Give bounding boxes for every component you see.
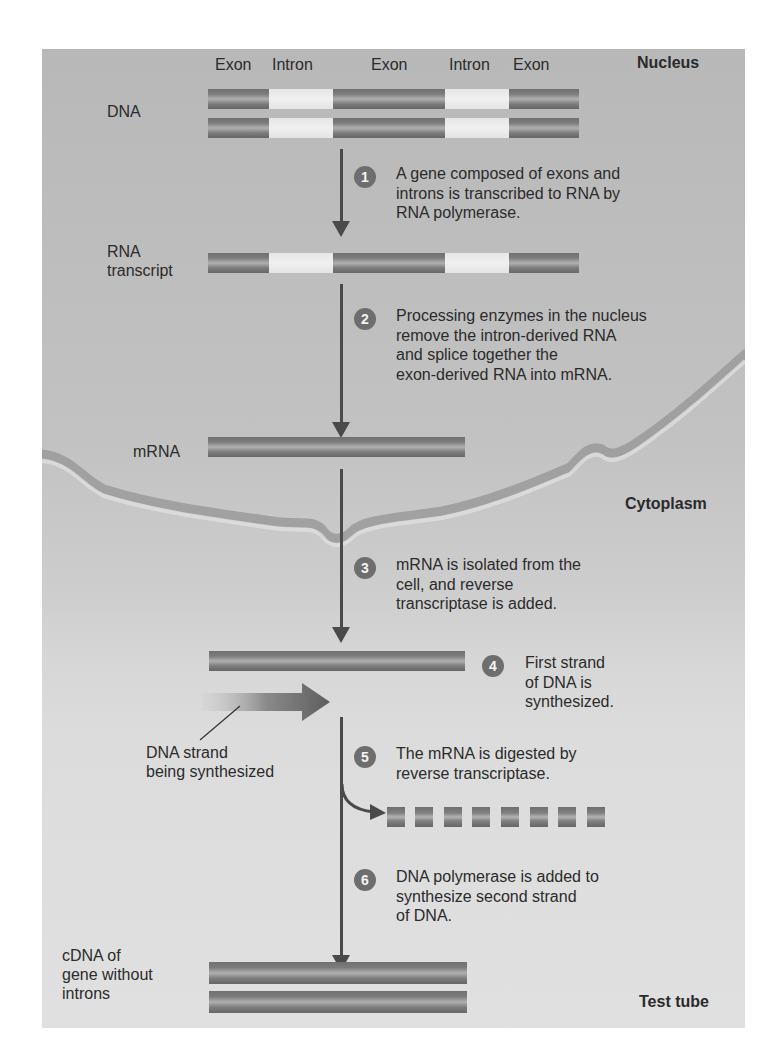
segment-label-intron-2: Intron — [449, 55, 490, 74]
arrow-step-1 — [340, 149, 343, 225]
segment-label-exon-1: Exon — [215, 55, 251, 74]
mrna-strand — [208, 437, 465, 457]
label-dna: DNA — [107, 102, 141, 121]
leader-line — [192, 704, 252, 744]
arrowhead-icon — [332, 627, 350, 643]
arrow-step-3 — [340, 469, 343, 631]
step-text-6: DNA polymerase is added to synthesize se… — [396, 867, 599, 926]
segment-label-intron-1: Intron — [272, 55, 313, 74]
step-text-1: A gene composed of exons and introns is … — [396, 164, 620, 223]
step-badge-5: 5 — [354, 746, 376, 768]
segment-label-exon-3: Exon — [513, 55, 549, 74]
arrowhead-icon — [332, 422, 350, 438]
region-cytoplasm: Cytoplasm — [625, 495, 707, 513]
diagram-panel: Nucleus Cytoplasm Test tube Exon Intron … — [42, 49, 745, 1028]
step-text-2: Processing enzymes in the nucleus remove… — [396, 306, 647, 384]
step-badge-4: 4 — [482, 655, 504, 677]
step-text-5: The mRNA is digested by reverse transcri… — [396, 744, 577, 783]
arrow-step-2 — [340, 284, 343, 426]
arrowhead-icon — [332, 221, 350, 237]
step-text-3: mRNA is isolated from the cell, and reve… — [396, 555, 581, 614]
label-rna-transcript: RNA transcript — [107, 242, 173, 280]
step-text-4: First strand of DNA is synthesized. — [525, 653, 614, 712]
label-mrna: mRNA — [133, 442, 180, 461]
nuclear-membrane — [42, 49, 745, 1028]
region-test-tube: Test tube — [639, 993, 709, 1011]
step-badge-1: 1 — [354, 166, 376, 188]
region-nucleus: Nucleus — [637, 54, 699, 72]
digestion-arrow-icon — [340, 784, 390, 824]
label-cdna: cDNA of gene without introns — [62, 946, 153, 1003]
step-badge-2: 2 — [354, 308, 376, 330]
arrow-step-5-6 — [340, 717, 343, 959]
step-badge-6: 6 — [354, 869, 376, 891]
step-badge-3: 3 — [354, 557, 376, 579]
mrna-template-strand — [209, 651, 465, 671]
label-dna-strand-being-synthesized: DNA strand being synthesized — [146, 743, 274, 781]
segment-label-exon-2: Exon — [371, 55, 407, 74]
